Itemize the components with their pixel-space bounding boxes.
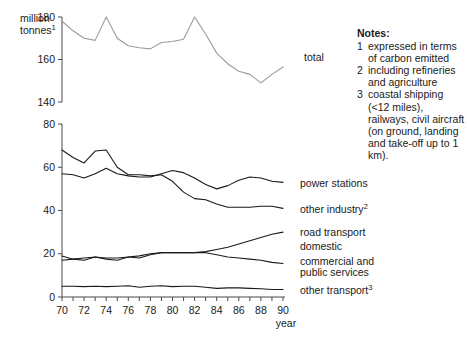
x-tick-label: 90 xyxy=(277,304,289,316)
x-tick-label: 74 xyxy=(100,304,112,316)
y-axis-unit-label: million tonnes1 xyxy=(20,12,56,36)
series-power-stations xyxy=(62,168,283,189)
x-tick-label: 84 xyxy=(211,304,223,316)
unit-line-1: million xyxy=(20,12,50,24)
note-text-1: expressed in terms of carbon emitted xyxy=(368,40,465,64)
x-tick-label: 70 xyxy=(56,304,68,316)
unit-footnote-marker: 1 xyxy=(52,23,56,32)
series-total xyxy=(62,17,283,83)
series-label-public-services: public services xyxy=(300,266,369,278)
sectors-panel-ytick-label: 80 xyxy=(43,118,55,130)
note-text-3: coastal shipping (<12 miles), railways, … xyxy=(368,88,465,161)
note-number-1: 1 xyxy=(357,40,368,52)
note-text-2: including refineries and agriculture xyxy=(368,64,465,88)
sectors-panel-ytick-label: 20 xyxy=(43,247,55,259)
total-panel-ytick-label: 140 xyxy=(37,96,55,108)
note-number-3: 3 xyxy=(357,88,368,100)
x-tick-label: 82 xyxy=(189,304,201,316)
sectors-panel-ytick-label: 40 xyxy=(43,204,55,216)
note-item-3: 3 coastal shipping (<12 miles), railways… xyxy=(357,88,465,161)
series-road-transport xyxy=(62,232,283,260)
axes-layer: 1401601800204060807072747678808284868890… xyxy=(37,11,296,329)
series-label-road-transport: road transport xyxy=(300,226,365,238)
x-tick-label: 76 xyxy=(122,304,134,316)
series-other-transport xyxy=(62,286,283,290)
total-panel-ytick-label: 160 xyxy=(37,53,55,65)
series-layer xyxy=(62,17,283,289)
notes-title: Notes: xyxy=(357,27,465,39)
note-item-2: 2 including refineries and agriculture xyxy=(357,64,465,88)
series-label-total: total xyxy=(304,51,324,63)
unit-line-2: tonnes xyxy=(20,24,52,36)
x-tick-label: 80 xyxy=(167,304,179,316)
x-axis-name: year xyxy=(276,317,297,329)
note-number-2: 2 xyxy=(357,64,368,76)
x-tick-label: 86 xyxy=(233,304,245,316)
series-label-power-stations: power stations xyxy=(300,177,368,189)
x-tick-label: 88 xyxy=(255,304,267,316)
series-label-other-transport: other transport3 xyxy=(300,283,372,297)
series-label-domestic: domestic xyxy=(300,240,342,252)
sectors-panel-ytick-label: 0 xyxy=(49,291,55,303)
notes-block: Notes: 1 expressed in terms of carbon em… xyxy=(357,27,465,161)
series-label-other-industry: other industry2 xyxy=(300,202,368,216)
emissions-chart: million tonnes1 140160180020406080707274… xyxy=(0,0,467,346)
note-item-1: 1 expressed in terms of carbon emitted xyxy=(357,40,465,64)
series-other-industry xyxy=(62,150,283,208)
sectors-panel-ytick-label: 60 xyxy=(43,161,55,173)
series-domestic-and-commercial xyxy=(62,253,283,264)
x-tick-label: 72 xyxy=(78,304,90,316)
x-tick-label: 78 xyxy=(145,304,157,316)
